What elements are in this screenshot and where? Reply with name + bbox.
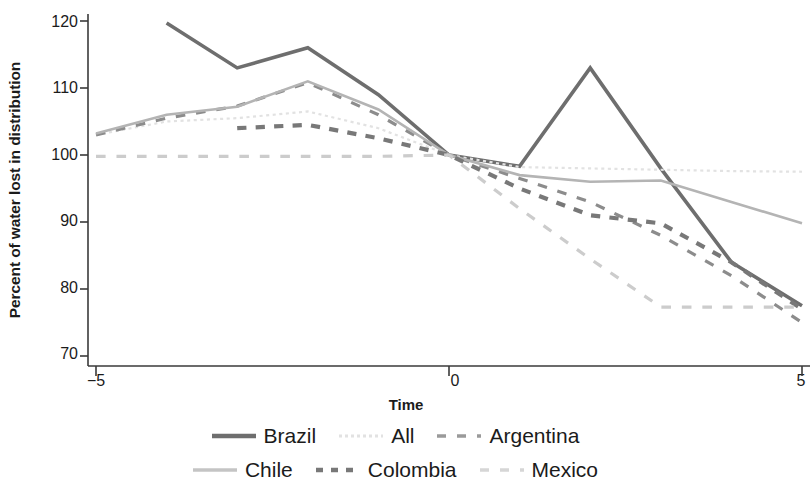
legend-label-brazil: Brazil — [264, 424, 317, 448]
series-line-argentina — [96, 83, 802, 323]
legend-label-argentina: Argentina — [489, 424, 579, 448]
line-swatch-dashed-pale-icon — [479, 463, 525, 477]
legend-label-mexico: Mexico — [532, 458, 599, 482]
chart-figure: Percent of water lost in distribution 12… — [0, 0, 812, 487]
series-line-all — [96, 111, 802, 171]
plot-area — [0, 0, 812, 420]
series-line-colombia — [237, 125, 802, 309]
series-line-chile — [96, 81, 802, 223]
line-swatch-dashed-dark-icon — [315, 463, 361, 477]
legend-item-colombia[interactable]: Colombia — [315, 458, 479, 482]
legend-label-all: All — [391, 424, 414, 448]
line-swatch-solid-light-icon — [192, 463, 238, 477]
legend-item-argentina[interactable]: Argentina — [436, 424, 601, 448]
x-axis-tick-marks — [96, 366, 802, 376]
line-swatch-solid-dark-icon — [211, 429, 257, 443]
legend-row-2: Chile Colombia Mexico — [0, 458, 812, 482]
axis-lines — [88, 14, 810, 366]
legend-item-chile[interactable]: Chile — [192, 458, 315, 482]
legend-item-mexico[interactable]: Mexico — [479, 458, 621, 482]
data-series-group — [96, 23, 802, 322]
legend-item-brazil[interactable]: Brazil — [211, 424, 339, 448]
legend-label-colombia: Colombia — [368, 458, 457, 482]
legend-label-chile: Chile — [245, 458, 293, 482]
chart-legend: Brazil All Argentina Chile — [0, 424, 812, 487]
series-line-mexico — [96, 155, 802, 307]
line-swatch-dashed-medium-icon — [436, 429, 482, 443]
legend-item-all[interactable]: All — [338, 424, 436, 448]
y-axis-tick-marks — [80, 21, 88, 356]
legend-row-1: Brazil All Argentina — [0, 424, 812, 448]
line-swatch-dotted-light-icon — [338, 429, 384, 443]
